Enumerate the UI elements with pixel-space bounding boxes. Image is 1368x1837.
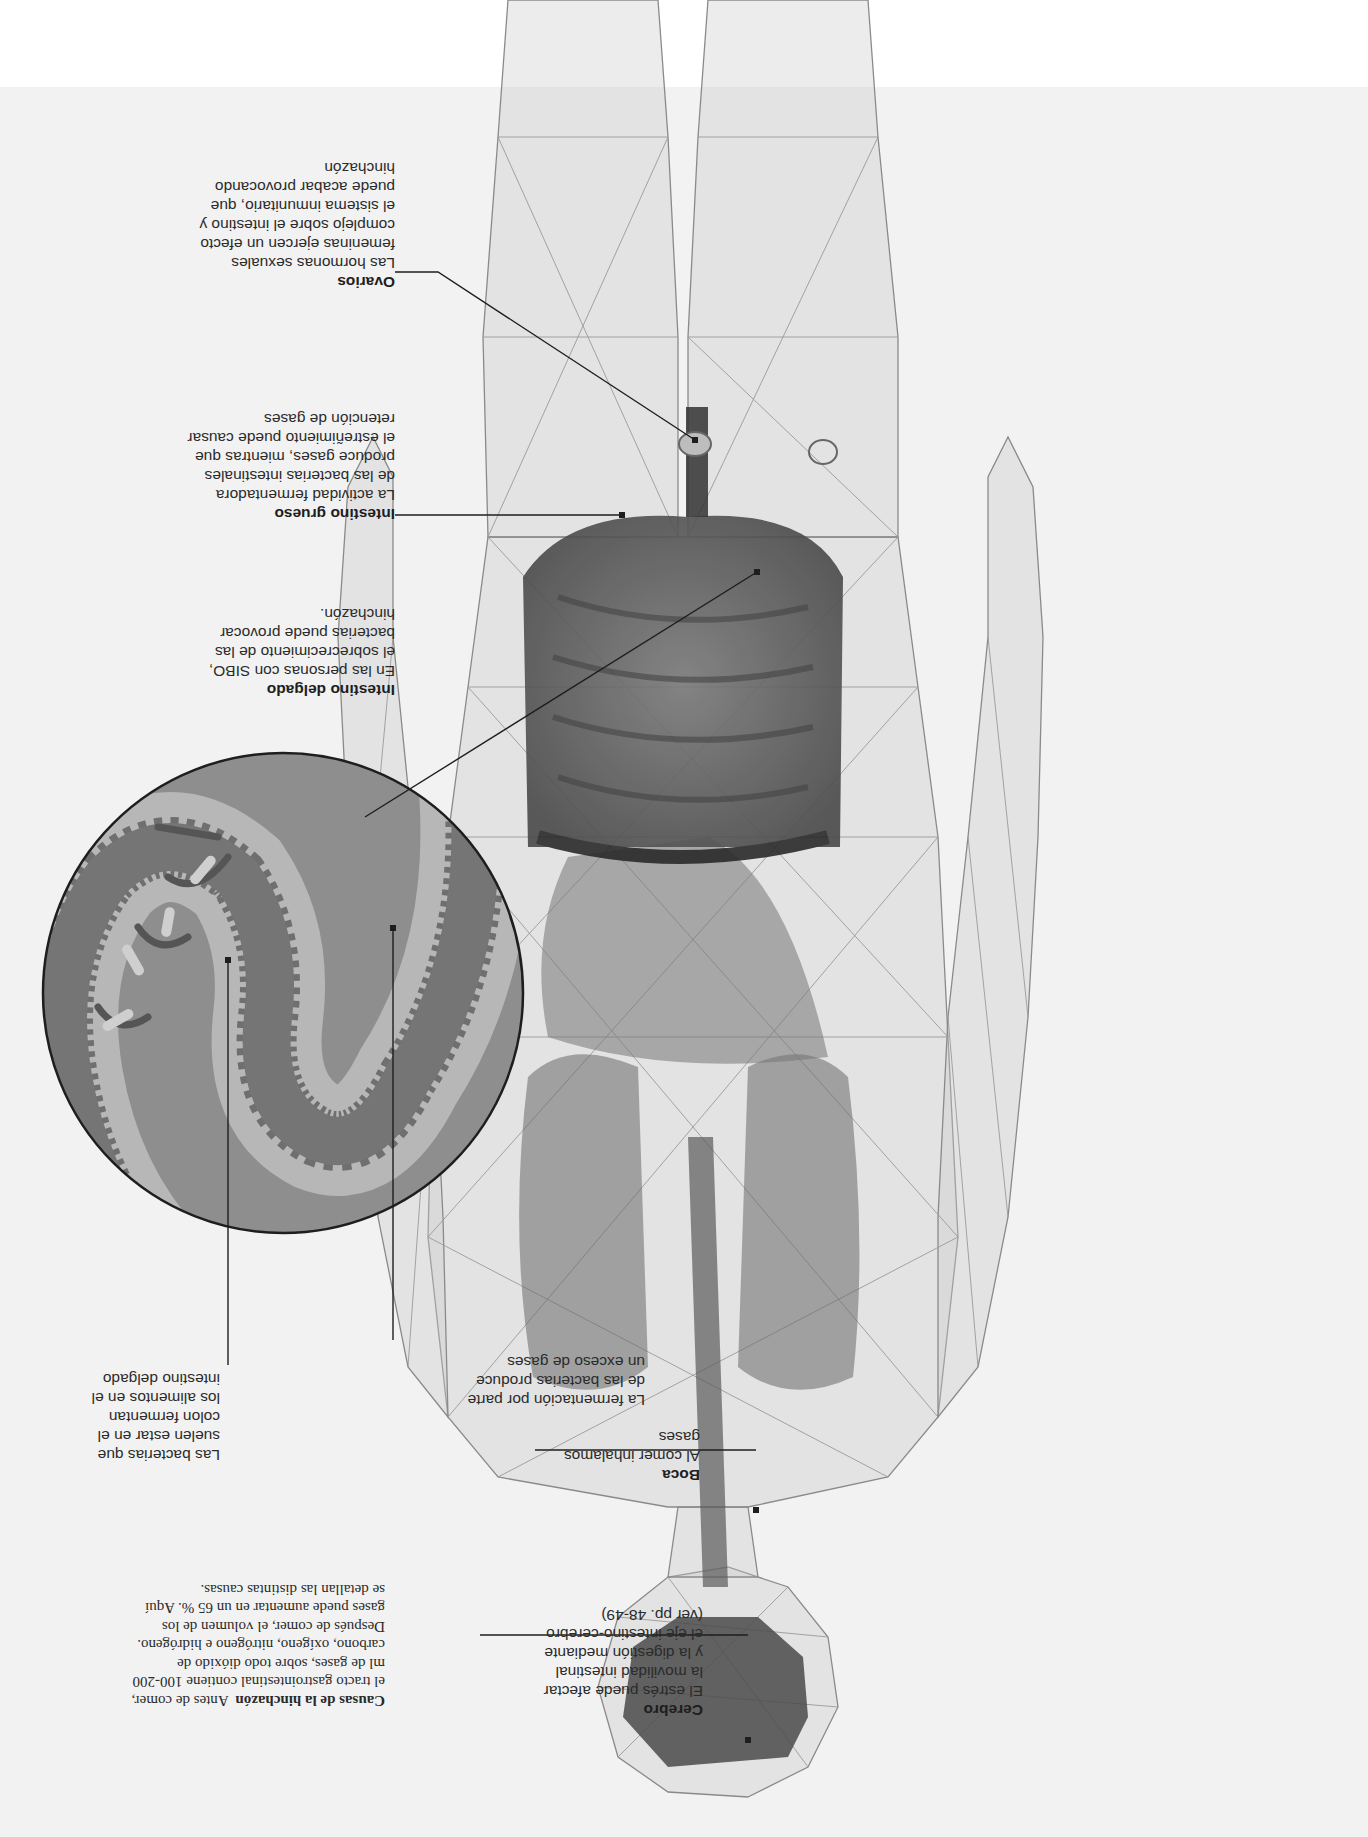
label-body: El estrés puede afectar la movilidad int…: [473, 1606, 703, 1701]
label-body: Al comer inhalamos gases: [520, 1428, 700, 1466]
label-ovarios: Ovarios Las hormonas sexuales femeninas …: [115, 159, 395, 292]
label-boca: Boca Al comer inhalamos gases: [520, 1428, 700, 1485]
label-title: Intestino grueso: [115, 505, 395, 524]
intro-title: Causas de la hinchazón: [235, 1693, 385, 1709]
infographic-page: Causas de la hinchazón Antes de comer, e…: [0, 0, 1368, 1837]
label-body: Las bacterias que suelen estar en el col…: [20, 1370, 220, 1465]
intro-paragraph: Causas de la hinchazón Antes de comer, e…: [130, 1581, 385, 1711]
label-title: Intestino delgado: [125, 681, 395, 700]
rectum: [686, 407, 708, 517]
label-title: Cerebro: [473, 1701, 703, 1720]
label-body: La actividad fermentadora de las bacteri…: [115, 410, 395, 505]
label-fermentacion: La fermentación por parte de las bacteri…: [385, 1353, 645, 1410]
label-intestino-delgado: Intestino delgado En las personas con SI…: [125, 605, 395, 700]
label-body: Las hormonas sexuales femeninas ejercen …: [115, 159, 395, 273]
label-bacterias: Las bacterias que suelen estar en el col…: [20, 1370, 220, 1465]
label-title: Ovarios: [115, 273, 395, 292]
label-title: Boca: [520, 1466, 700, 1485]
intestines: [523, 516, 843, 857]
label-intestino-grueso: Intestino grueso La actividad fermentado…: [115, 410, 395, 524]
intro-text: Antes de comer, el tracto gastrointestin…: [131, 1582, 385, 1709]
label-cerebro: Cerebro El estrés puede afectar la movil…: [473, 1606, 703, 1720]
label-body: En las personas con SIBO, el sobrecrecim…: [125, 605, 395, 681]
label-body: La fermentación por parte de las bacteri…: [385, 1353, 645, 1410]
